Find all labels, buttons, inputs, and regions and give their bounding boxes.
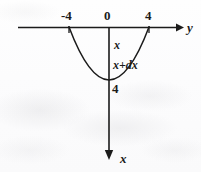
tick-label-4: 4 xyxy=(145,9,152,22)
vertex-value-label: 4 xyxy=(112,82,119,95)
math-figure: -4 0 4 y x x x+dx 4 xyxy=(0,0,201,172)
strip-label-x-plus-dx: x+dx xyxy=(113,59,138,71)
strip-label-x: x xyxy=(114,39,120,51)
x-axis-arrowhead xyxy=(105,150,113,160)
tick-label-0: 0 xyxy=(104,9,111,22)
y-axis-label: y xyxy=(187,21,193,34)
figure-canvas xyxy=(0,0,201,172)
tick-label-minus4: -4 xyxy=(61,9,72,22)
x-axis-label: x xyxy=(120,152,127,165)
y-axis-arrowhead xyxy=(176,24,184,32)
